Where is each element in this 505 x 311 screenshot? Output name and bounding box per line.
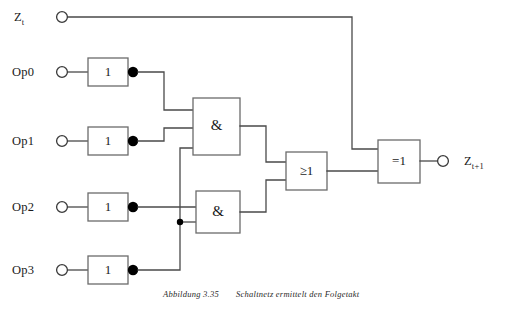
- junction-dot-and2-branch: [177, 219, 183, 225]
- terminal-op0[interactable]: [57, 67, 68, 78]
- terminal-op1[interactable]: [57, 136, 68, 147]
- logic-circuit-diagram: 1 1 1 1 & & ≥1 =1: [0, 0, 505, 311]
- label-input-op3: Op3: [12, 263, 34, 278]
- inversion-bubble-not-op1: [128, 136, 138, 146]
- wire-and1-to-or: [240, 126, 286, 162]
- terminal-zt-plus-1[interactable]: [438, 156, 449, 167]
- label-input-zt-base: Z: [14, 10, 22, 24]
- inversion-bubble-not-op0: [128, 67, 138, 77]
- figure-caption-number: Abbildung 3.35: [163, 289, 219, 299]
- gate-symbol-xor-1: =1: [392, 153, 406, 168]
- wire-not3-to-and1-and-and2: [138, 148, 193, 270]
- gate-symbol-or-1: ≥1: [300, 163, 314, 178]
- inversion-bubble-not-op3: [128, 265, 138, 275]
- terminal-zt[interactable]: [57, 12, 68, 23]
- gate-symbol-and-2: &: [212, 203, 224, 219]
- label-input-op0: Op0: [12, 65, 34, 80]
- gate-symbol-not-op1: 1: [105, 133, 112, 148]
- inversion-bubble-not-op2: [128, 202, 138, 212]
- label-output-sub: t+1: [472, 161, 484, 171]
- gate-symbol-not-op2: 1: [105, 199, 112, 214]
- figure-caption-text: Schaltnetz ermittelt den Folgetakt: [236, 289, 359, 299]
- gate-symbol-and-1: &: [211, 117, 223, 133]
- label-output-zt-plus-1: Zt+1: [464, 154, 484, 171]
- gate-symbol-not-op0: 1: [105, 64, 112, 79]
- wire-not0-to-and1: [138, 72, 193, 110]
- wire-not1-to-and1: [138, 128, 193, 141]
- terminal-op3[interactable]: [57, 265, 68, 276]
- label-input-op2: Op2: [12, 200, 34, 215]
- gate-symbol-not-op3: 1: [105, 262, 112, 277]
- label-input-zt: Zt: [14, 10, 24, 27]
- terminal-op2[interactable]: [57, 202, 68, 213]
- wire-and2-to-or: [240, 180, 286, 212]
- label-input-zt-sub: t: [22, 17, 25, 27]
- figure-canvas: 1 1 1 1 & & ≥1 =1 Zt Op0 Op1 Op2 Op3 Zt+…: [0, 0, 505, 311]
- label-output-base: Z: [464, 154, 472, 168]
- label-input-op1: Op1: [12, 134, 34, 149]
